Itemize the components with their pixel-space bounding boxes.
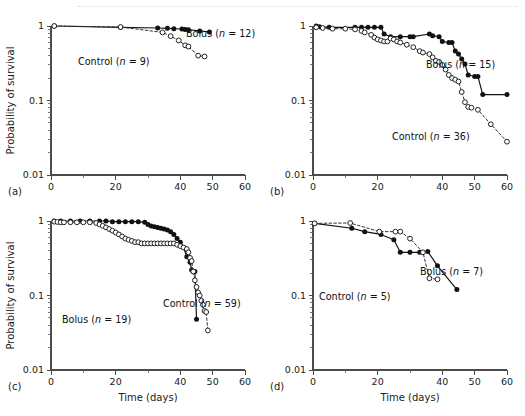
data-point [393, 229, 398, 234]
data-point [348, 221, 353, 226]
series-annotation: Bolus (n = 12) [186, 28, 255, 39]
data-point [349, 226, 354, 231]
data-point [123, 219, 128, 224]
x-ticklabel: 40 [174, 376, 186, 387]
data-point [204, 310, 209, 315]
data-point [459, 90, 464, 95]
x-ticklabel: 40 [174, 181, 186, 192]
plot-c: 10.10.01020405060Probability of survival… [0, 205, 262, 395]
data-point [136, 219, 141, 224]
data-point [343, 26, 348, 31]
data-point [440, 39, 445, 44]
data-point [103, 219, 108, 224]
data-point [480, 92, 485, 97]
x-ticklabel: 60 [239, 181, 251, 192]
data-point [171, 232, 176, 237]
x-ticklabel: 20 [110, 376, 122, 387]
data-point [437, 34, 442, 39]
data-point [192, 278, 197, 283]
data-point [425, 249, 430, 254]
data-point [189, 259, 194, 264]
x-ticklabel: 50 [469, 376, 481, 387]
series-annotation: Control (n = 59) [163, 298, 241, 309]
x-ticklabel: 50 [469, 181, 481, 192]
series-annotation: Control (n = 9) [78, 56, 150, 67]
data-point [382, 32, 387, 37]
data-point [205, 328, 210, 333]
data-point [377, 229, 382, 234]
panel-a: 10.10.01020405060Probability of survival… [0, 10, 262, 200]
series-annotation: Control (n = 5) [319, 291, 391, 302]
data-point [421, 50, 426, 55]
data-point [194, 285, 199, 290]
survival-figure: 10.10.01020405060Probability of survival… [0, 0, 525, 416]
y-ticklabel: 1 [38, 20, 44, 31]
data-point [505, 139, 510, 144]
x-ticklabel: 50 [207, 376, 219, 387]
data-point [411, 45, 416, 50]
y-ticklabel: 0.01 [23, 364, 44, 375]
x-axis-title: Time (days) [117, 392, 177, 403]
data-point [378, 25, 383, 30]
data-point [469, 105, 474, 110]
plot-d: 10.10.01020405060Time (days)Bolus (n = 7… [262, 205, 525, 395]
data-point [466, 72, 471, 77]
x-ticklabel: 60 [239, 376, 251, 387]
data-point [408, 236, 413, 241]
x-ticklabel: 20 [110, 181, 122, 192]
series-line [316, 27, 507, 141]
data-point [454, 287, 459, 292]
y-axis-title: Probability of survival [5, 46, 16, 154]
data-point [312, 221, 317, 226]
data-point [196, 53, 201, 58]
data-point [110, 219, 115, 224]
data-point [463, 100, 468, 105]
panel-letter-d: (d) [270, 381, 284, 392]
data-point [314, 25, 319, 30]
x-ticklabel: 0 [48, 376, 54, 387]
x-ticklabel: 0 [310, 376, 316, 387]
y-ticklabel: 0.01 [285, 364, 306, 375]
data-point [186, 250, 191, 255]
data-point [365, 25, 370, 30]
y-ticklabel: 0.01 [23, 169, 44, 180]
x-ticklabel: 50 [207, 181, 219, 192]
data-point [421, 250, 426, 255]
data-point [68, 220, 73, 225]
x-ticklabel: 20 [372, 181, 384, 192]
plot-a: 10.10.01020405060Probability of survival… [0, 10, 262, 200]
y-ticklabel: 0.1 [29, 95, 44, 106]
data-point [476, 107, 481, 112]
data-point [62, 220, 67, 225]
data-point [160, 30, 165, 35]
y-ticklabel: 0.1 [291, 95, 306, 106]
data-point [456, 79, 461, 84]
data-point [398, 34, 403, 39]
y-ticklabel: 1 [300, 20, 306, 31]
x-ticklabel: 0 [310, 181, 316, 192]
y-ticklabel: 1 [38, 215, 44, 226]
x-ticklabel: 40 [436, 181, 448, 192]
data-point [398, 40, 403, 45]
data-point [194, 317, 199, 322]
series-annotation: Bolus (n = 15) [426, 59, 495, 70]
data-point [353, 27, 358, 32]
plot-b: 10.10.01020405060Bolus (n = 15)Control (… [262, 10, 525, 200]
data-point [505, 92, 510, 97]
data-point [81, 220, 86, 225]
scan-artifact-line [78, 6, 518, 8]
panel-c: 10.10.01020405060Probability of survival… [0, 205, 262, 395]
data-point [186, 44, 191, 49]
x-ticklabel: 40 [436, 376, 448, 387]
y-axis-title: Probability of survival [5, 241, 16, 349]
panel-d: 10.10.01020405060Time (days)Bolus (n = 7… [262, 205, 525, 395]
data-point [168, 34, 173, 39]
data-point [202, 54, 207, 59]
data-point [362, 30, 367, 35]
data-point [191, 269, 196, 274]
data-point [87, 220, 92, 225]
x-ticklabel: 60 [501, 376, 513, 387]
x-ticklabel: 0 [48, 181, 54, 192]
data-point [475, 74, 480, 79]
data-point [171, 26, 176, 31]
